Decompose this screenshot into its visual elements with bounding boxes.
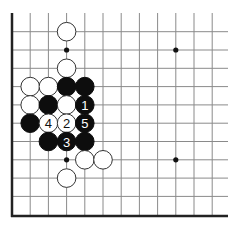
black-stone: [76, 132, 95, 151]
white-stone: [76, 151, 95, 170]
white-stone: [94, 151, 113, 170]
go-board-diagram: 14253: [0, 0, 235, 230]
move-number-label: 3: [63, 135, 70, 150]
white-stone: [57, 96, 76, 115]
black-stone: 3: [57, 132, 76, 151]
white-stone: [57, 22, 76, 41]
black-stone-icon: [76, 77, 95, 96]
white-stone: [57, 59, 76, 78]
white-stone-icon: [21, 96, 40, 115]
star-point-icon: [64, 47, 69, 52]
white-stone-icon: [57, 169, 76, 188]
go-board: 14253: [0, 0, 235, 230]
white-stone-icon: [57, 96, 76, 115]
black-stone: [76, 77, 95, 96]
white-stone-icon: [39, 77, 58, 96]
black-stone: 1: [76, 96, 95, 115]
white-stone: [21, 77, 40, 96]
move-number-label: 5: [81, 116, 88, 131]
black-stone-icon: [76, 132, 95, 151]
black-stone: [57, 77, 76, 96]
white-stone: [39, 77, 58, 96]
star-point-icon: [64, 157, 69, 162]
move-number-label: 1: [81, 98, 88, 113]
white-stone-icon: [57, 22, 76, 41]
white-stone: 4: [39, 114, 58, 133]
black-stone: 5: [76, 114, 95, 133]
white-stone: 2: [57, 114, 76, 133]
black-stone: [39, 132, 58, 151]
white-stone-icon: [21, 77, 40, 96]
move-number-label: 2: [63, 116, 70, 131]
black-stone: [39, 96, 58, 115]
white-stone-icon: [76, 151, 95, 170]
white-stone-icon: [94, 151, 113, 170]
white-stone: [21, 96, 40, 115]
black-stone: [21, 114, 40, 133]
move-number-label: 4: [45, 116, 52, 131]
star-point-icon: [173, 47, 178, 52]
black-stone-icon: [39, 96, 58, 115]
black-stone-icon: [21, 114, 40, 133]
white-stone: [57, 169, 76, 188]
black-stone-icon: [57, 77, 76, 96]
white-stone-icon: [57, 59, 76, 78]
star-point-icon: [173, 157, 178, 162]
black-stone-icon: [39, 132, 58, 151]
